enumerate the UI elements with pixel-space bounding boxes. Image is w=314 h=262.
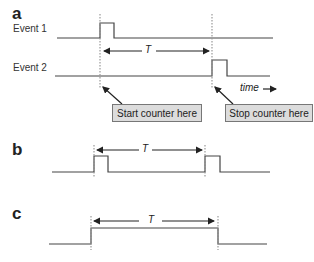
panel-c-label: c bbox=[12, 204, 21, 224]
timing-diagram bbox=[0, 0, 314, 262]
period-label-b: T bbox=[142, 143, 148, 154]
event2-label: Event 2 bbox=[13, 62, 47, 73]
panel-c-signal bbox=[49, 228, 267, 244]
start-counter-box: Start counter here bbox=[112, 104, 202, 122]
panel-b-signal bbox=[52, 156, 270, 172]
panel-b-label: b bbox=[12, 140, 22, 160]
period-label-a: T bbox=[145, 44, 151, 55]
panel-a-label: a bbox=[12, 4, 21, 24]
event2-signal bbox=[55, 60, 270, 76]
event1-label: Event 1 bbox=[13, 23, 47, 34]
stop-counter-box: Stop counter here bbox=[225, 104, 313, 122]
time-label: time bbox=[240, 82, 259, 93]
event1-signal bbox=[57, 23, 273, 38]
period-label-c: T bbox=[148, 214, 154, 225]
